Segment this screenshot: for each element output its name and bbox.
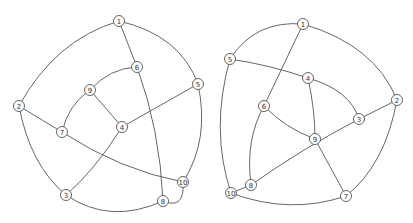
- graph-edge: [346, 100, 397, 196]
- graph-node-8: 8: [246, 180, 257, 191]
- graph-edge: [183, 84, 202, 182]
- node-label: 6: [262, 103, 267, 111]
- graph-edge: [90, 67, 137, 90]
- graph-edge: [122, 84, 198, 127]
- node-label: 3: [64, 192, 68, 200]
- graph-node-10: 10: [226, 188, 237, 199]
- right-graph: 12345678910: [220, 19, 402, 205]
- graph-node-3: 3: [354, 114, 365, 125]
- graph-node-5: 5: [193, 79, 204, 90]
- node-label: 1: [117, 18, 121, 26]
- node-label: 1: [301, 21, 305, 29]
- left-graph-edges: [19, 21, 202, 212]
- node-label: 8: [161, 198, 165, 206]
- graph-node-4: 4: [117, 122, 128, 133]
- node-label: 10: [227, 190, 236, 198]
- node-label: 10: [179, 179, 188, 187]
- graph-node-3: 3: [61, 190, 72, 201]
- node-label: 7: [344, 193, 348, 201]
- left-graph: 12345678910: [14, 16, 204, 212]
- right-graph-edges: [220, 24, 397, 205]
- graph-node-5: 5: [225, 54, 236, 65]
- graph-edge: [264, 106, 315, 139]
- graph-node-6: 6: [259, 101, 270, 112]
- node-label: 9: [88, 87, 92, 95]
- node-label: 9: [313, 136, 317, 144]
- node-label: 8: [249, 182, 253, 190]
- graph-edge: [90, 90, 122, 127]
- graph-edge: [315, 139, 346, 196]
- graph-edge: [66, 195, 163, 212]
- node-label: 2: [17, 103, 21, 111]
- graph-edge: [220, 59, 231, 193]
- graph-node-1: 1: [114, 16, 125, 27]
- graph-node-9: 9: [310, 134, 321, 145]
- graph-node-2: 2: [392, 95, 403, 106]
- node-label: 4: [306, 75, 311, 83]
- graph-node-7: 7: [57, 127, 68, 138]
- graph-edge: [250, 106, 264, 185]
- node-label: 6: [135, 64, 140, 72]
- graph-node-4: 4: [303, 73, 314, 84]
- graph-node-1: 1: [298, 19, 309, 30]
- graph-edge: [308, 78, 359, 119]
- graph-node-8: 8: [158, 196, 169, 207]
- graph-edge: [230, 24, 303, 59]
- graph-edge: [264, 24, 303, 106]
- graph-edge: [66, 127, 122, 195]
- graph-edge: [308, 78, 315, 139]
- graph-canvas: 12345678910 12345678910: [0, 0, 413, 223]
- node-label: 3: [357, 116, 361, 124]
- graph-edge: [19, 21, 119, 106]
- graph-node-7: 7: [341, 191, 352, 202]
- node-label: 7: [60, 129, 64, 137]
- node-label: 2: [395, 97, 399, 105]
- graph-edge: [359, 100, 397, 119]
- graph-edge: [19, 106, 66, 195]
- graph-edge: [230, 59, 308, 78]
- node-label: 5: [196, 81, 200, 89]
- graph-edge: [19, 106, 62, 132]
- graph-node-2: 2: [14, 101, 25, 112]
- graph-edge: [119, 21, 137, 67]
- node-label: 4: [120, 124, 125, 132]
- graph-edge: [231, 193, 346, 205]
- node-label: 5: [228, 56, 232, 64]
- graph-edge: [62, 132, 183, 182]
- graph-node-10: 10: [178, 177, 189, 188]
- graph-edge: [62, 90, 90, 132]
- graph-edge: [251, 119, 359, 185]
- graph-node-6: 6: [132, 62, 143, 73]
- graph-edge: [303, 24, 397, 100]
- graph-edge: [137, 67, 163, 201]
- graph-node-9: 9: [85, 85, 96, 96]
